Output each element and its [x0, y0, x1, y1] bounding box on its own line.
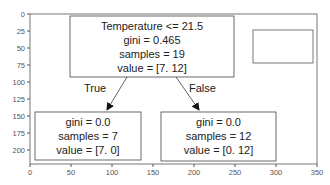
- node-split-rule: Temperature <= 21.5: [101, 20, 203, 32]
- node-value: value = [7. 0]: [56, 144, 119, 156]
- x-tick-label: 350: [311, 168, 324, 177]
- x-tick-label: 200: [188, 168, 201, 177]
- node-value: value = [7. 12]: [117, 62, 186, 74]
- y-tick-label: 0: [21, 10, 25, 19]
- tree-node-right-leaf: gini = 0.0 samples = 12 value = [0. 12]: [161, 112, 276, 161]
- y-tick-label: 150: [12, 112, 25, 121]
- y-axis: 0 25 50 75 100 125 150 175 200: [12, 10, 30, 155]
- empty-box: [253, 30, 313, 63]
- y-tick-label: 25: [17, 27, 25, 36]
- y-tick-label: 200: [12, 146, 25, 155]
- y-tick-label: 125: [12, 95, 25, 104]
- edge-label-false: False: [189, 82, 216, 94]
- x-tick-label: 100: [106, 168, 119, 177]
- node-samples: samples = 12: [186, 130, 252, 142]
- y-tick-label: 50: [17, 44, 25, 53]
- x-tick-label: 250: [229, 168, 242, 177]
- x-tick-label: 300: [270, 168, 283, 177]
- node-gini: gini = 0.0: [196, 116, 241, 128]
- node-gini: gini = 0.465: [123, 34, 180, 46]
- node-samples: samples = 19: [119, 48, 185, 60]
- x-tick-label: 50: [67, 168, 75, 177]
- node-value: value = [0. 12]: [184, 144, 253, 156]
- decision-tree-chart: 0 25 50 75 100 125 150 175 200 0 50 100 …: [0, 0, 330, 185]
- node-gini: gini = 0.0: [66, 116, 111, 128]
- node-samples: samples = 7: [58, 130, 118, 142]
- x-tick-label: 0: [28, 168, 32, 177]
- edge-true-arrow: [107, 77, 127, 110]
- y-tick-label: 100: [12, 78, 25, 87]
- y-tick-label: 75: [17, 61, 25, 70]
- edge-label-true: True: [84, 82, 106, 94]
- tree-node-root: Temperature <= 21.5 gini = 0.465 samples…: [70, 16, 234, 77]
- x-tick-label: 150: [147, 168, 160, 177]
- x-axis: 0 50 100 150 200 250 300 350: [28, 164, 323, 177]
- y-tick-label: 175: [12, 129, 25, 138]
- tree-node-left-leaf: gini = 0.0 samples = 7 value = [7. 0]: [35, 112, 141, 160]
